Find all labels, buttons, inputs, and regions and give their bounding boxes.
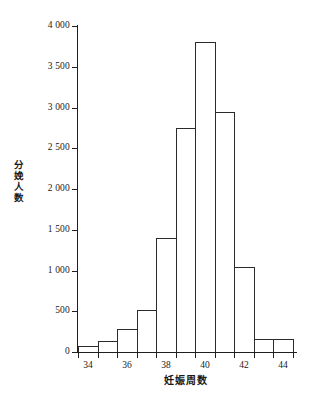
- histogram-bar: [137, 310, 158, 352]
- x-axis-tick-label: 38: [153, 360, 179, 371]
- y-axis-title: 分娩人数: [8, 160, 24, 204]
- y-axis-tick-label: 500: [8, 306, 70, 316]
- y-axis-tick: [72, 271, 77, 272]
- x-axis-tick-label: 42: [231, 360, 257, 371]
- y-axis-tick: [72, 67, 77, 68]
- x-axis-tick: [293, 353, 294, 358]
- y-axis-tick-label: 4 000: [8, 21, 70, 31]
- histogram-bar: [156, 238, 177, 352]
- y-axis-tick: [72, 148, 77, 149]
- y-axis-tick: [72, 311, 77, 312]
- x-axis-tick-label: 34: [75, 360, 101, 371]
- bars-container: [78, 26, 293, 352]
- histogram-bar: [176, 128, 197, 352]
- y-axis-tick-label-text: 3 000: [12, 103, 70, 113]
- y-axis-tick-label-text: 3 500: [12, 62, 70, 72]
- x-axis-tick: [254, 353, 255, 358]
- histogram-chart: 05001 0001 5002 0002 5003 0003 5004 000 …: [0, 0, 311, 404]
- y-axis-tick-label-text: 0: [12, 347, 70, 357]
- y-axis-tick-label-text: 1 000: [12, 266, 70, 276]
- histogram-bar: [117, 329, 138, 352]
- y-axis-tick-label-text: 1 500: [12, 225, 70, 235]
- y-axis-tick-label-text: 4 000: [12, 21, 70, 31]
- y-axis-tick-label: 2 500: [8, 143, 70, 153]
- y-axis-tick: [72, 108, 77, 109]
- y-axis-tick-label-text: 2 500: [12, 143, 70, 153]
- x-axis-tick: [117, 353, 118, 358]
- y-axis-tick-label: 1 000: [8, 266, 70, 276]
- x-axis-tick: [234, 353, 235, 358]
- x-axis-tick: [156, 353, 157, 358]
- x-axis-tick: [215, 353, 216, 358]
- y-axis-tick: [72, 26, 77, 27]
- x-axis-tick: [78, 353, 79, 358]
- x-axis-line: [77, 352, 297, 353]
- y-axis-tick-label: 3 500: [8, 62, 70, 72]
- histogram-bar: [254, 339, 275, 352]
- y-axis-tick-label: 3 000: [8, 103, 70, 113]
- y-axis-tick: [72, 230, 77, 231]
- y-axis-tick: [72, 189, 77, 190]
- x-axis-tick-label: 36: [114, 360, 140, 371]
- x-axis-tick: [273, 353, 274, 358]
- x-axis-tick: [195, 353, 196, 358]
- x-axis-tick: [137, 353, 138, 358]
- histogram-bar: [78, 346, 99, 352]
- histogram-bar: [98, 341, 119, 352]
- x-axis-tick-label: 40: [192, 360, 218, 371]
- x-axis-tick-label: 44: [270, 360, 296, 371]
- histogram-bar: [273, 339, 294, 352]
- histogram-bar: [195, 42, 216, 352]
- x-axis-tick: [176, 353, 177, 358]
- y-axis-tick-label-text: 500: [12, 306, 70, 316]
- x-axis-title: 妊娠周数: [78, 375, 293, 387]
- y-axis-tick-label: 0: [8, 347, 70, 357]
- y-axis-tick-label: 1 500: [8, 225, 70, 235]
- x-axis-tick: [98, 353, 99, 358]
- y-axis-tick: [72, 352, 77, 353]
- histogram-bar: [215, 112, 236, 352]
- histogram-bar: [234, 267, 255, 352]
